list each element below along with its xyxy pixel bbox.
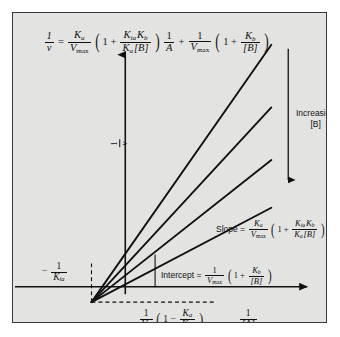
eq-plus-2: + (179, 36, 185, 47)
eq-ka-vmax: Ka Vmax (68, 30, 91, 54)
eq-paren-close: ) (155, 31, 159, 53)
intercept-one-over-vmax: 1 Vmax (205, 266, 224, 286)
increasing-b-label: Increasing [B] (296, 108, 327, 129)
eq-paren-open: ( (95, 31, 99, 53)
intercept-label: Intercept = (161, 270, 201, 280)
slope-inner-fraction: Kia Kb Ka [B] (292, 219, 317, 240)
figure-panel: 1 v = Ka Vmax ( 1 + Kia Kb Ka [B] ) 1 A … (12, 12, 327, 323)
v1-paren-open: ( (157, 310, 161, 323)
intercept-paren-close: ) (268, 267, 272, 284)
slope-ka-vmax: Ka Vmax (249, 219, 268, 240)
data-line-1 (91, 45, 271, 302)
eq-kia-kb-over-ka-b: Kia Kb Ka [B] (120, 30, 150, 54)
eq-paren2-open: ( (216, 31, 220, 53)
neg-one-over-kia-label: − 1 Kia (42, 262, 68, 282)
v1-ka-over-kia: Ka Kia (180, 309, 195, 323)
v1-paren-close: ) (199, 310, 203, 323)
slope-paren-open: ( (272, 221, 276, 238)
eq-one-over-vmax: 1 Vmax (189, 31, 212, 54)
eq-one-2: 1 (223, 36, 228, 47)
eq-one: 1 (103, 36, 108, 47)
eq-lhs-fraction: 1 v (45, 31, 54, 53)
eq-equals: = (58, 36, 64, 47)
intercept-annotation: Intercept = 1 Vmax ( 1 + Kb [B] ) (161, 266, 272, 286)
v1-intersection-expression: 1 V1 ( 1 − Ka Kia ) (138, 309, 203, 323)
eq-paren2-close: ) (264, 31, 268, 53)
slope-annotation: Slope = Ka Vmax ( 1 + Kia Kb Ka [B] ) (216, 219, 325, 240)
v1-one-over-v1: 1 V1 (140, 309, 153, 323)
slope-label: Slope = (216, 224, 245, 234)
eq-plus: + (110, 36, 116, 47)
eq-one-over-a: 1 A (164, 31, 174, 53)
master-equation: 1 v = Ka Vmax ( 1 + Kia Kb Ka [B] ) 1 A … (43, 30, 269, 54)
eq-plus-3: + (231, 36, 237, 47)
y-axis-label: 1 v (110, 138, 129, 150)
intercept-paren-open: ( (228, 267, 232, 284)
figure-container: 1 v = Ka Vmax ( 1 + Kia Kb Ka [B] ) 1 A … (0, 0, 340, 337)
slope-paren-close: ) (321, 221, 325, 238)
x-axis-label: 1 [A] (238, 309, 258, 323)
eq-kb-over-b: Kb [B] (241, 31, 260, 54)
intercept-kb-over-b: Kb [B] (249, 266, 265, 286)
